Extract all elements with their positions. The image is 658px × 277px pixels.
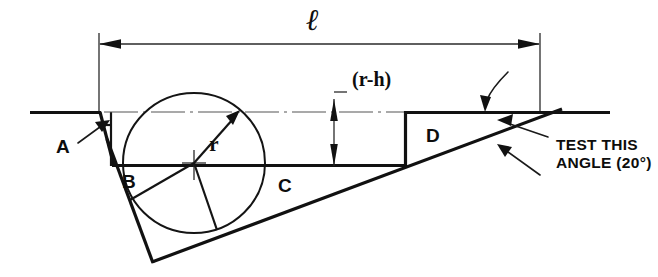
dimension-depth-group: (r-h) [330,68,391,166]
label-point-a: A [56,136,70,157]
depth-arrow-upper [330,99,338,121]
test-angle-callout-group: TEST THIS ANGLE (20°) [480,72,652,175]
length-label: ℓ [306,3,319,36]
gauge-circle-group: r [123,93,265,233]
depth-label: (r-h) [352,68,391,91]
callout-a-group: A [56,120,110,157]
test-angle-arrowhead-middle [497,114,513,126]
label-point-b: B [122,171,136,192]
test-angle-leader-middle [510,124,548,137]
notch-back-face [107,139,153,263]
test-angle-leader-lower [508,152,540,175]
radius-label: r [209,132,218,156]
test-angle-note-line2: ANGLE (20°) [556,154,652,171]
test-angle-arrowhead-lower [497,144,512,157]
dimension-length-group: ℓ [99,3,540,112]
test-angle-note-line1: TEST THIS [556,136,638,153]
dimension-arrow-right [518,39,540,49]
depth-arrow-lower [330,144,338,166]
technical-diagram-svg: ℓ [0,0,658,277]
diagram-root: ℓ [0,0,658,277]
label-point-d: D [426,125,440,146]
test-angle-leader-upper [487,72,508,100]
test-angle-arrowhead-upper [480,95,491,112]
part-outline-group [30,109,610,263]
dimension-arrow-left [99,39,121,49]
radius-to-right-tangent [194,163,217,230]
label-point-c: C [278,175,292,196]
radius-to-left-tangent [130,163,194,200]
